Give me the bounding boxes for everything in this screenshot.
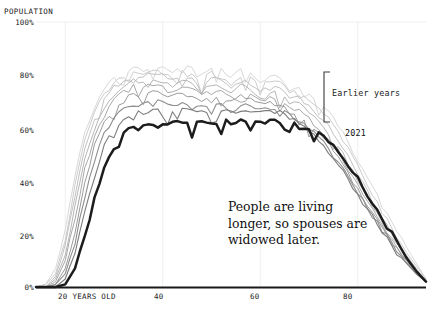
- series-label-2021: 2021: [345, 128, 366, 138]
- series-lines: [36, 66, 426, 287]
- earlier-years-label: Earlier years: [332, 88, 400, 98]
- series-line-earlier: [36, 73, 426, 287]
- callout-text: People are living longer, so spouses are…: [228, 199, 368, 249]
- plot-area: [0, 0, 435, 310]
- series-line-earlier: [36, 79, 426, 287]
- population-line-chart: POPULATION 100% 80% 60% 40% 20% 0% 20 YE…: [0, 0, 435, 310]
- series-line-earlier: [36, 100, 426, 287]
